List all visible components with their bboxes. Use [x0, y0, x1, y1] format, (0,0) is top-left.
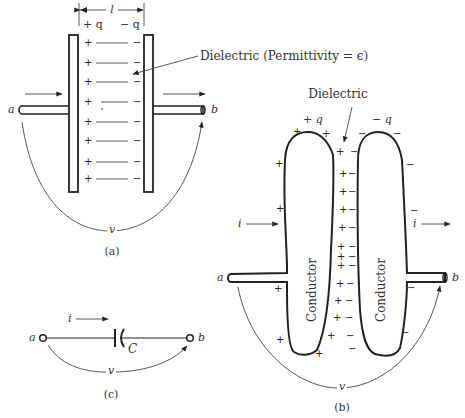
panel-a-parallel-plate: l + q − q a b +− +− +− +− +− +− +− +− Di…: [8, 3, 368, 258]
dielectric-pointer-b: [344, 107, 352, 142]
voltage-label: v: [109, 223, 116, 236]
capacitor-label: C: [128, 342, 137, 356]
voltage-label-b: v: [339, 380, 346, 393]
terminal-a-label-c: a: [29, 331, 36, 344]
plus-q-label: + q: [83, 18, 103, 31]
capacitor-diagram: l + q − q a b +− +− +− +− +− +− +− +− Di…: [0, 0, 465, 418]
svg-text:+: +: [275, 158, 283, 169]
terminal-a-label: a: [8, 103, 15, 116]
lead-b: [153, 106, 203, 114]
svg-text:+: +: [84, 116, 92, 127]
caption-a: (a): [104, 245, 119, 258]
charge-rows: +− +− +− +− +− +− +− +−: [84, 37, 141, 184]
svg-text:−: −: [346, 330, 354, 341]
svg-text:+: +: [84, 37, 92, 48]
right-plate: [144, 35, 153, 192]
svg-text:+: +: [336, 146, 344, 157]
svg-text:+: +: [327, 330, 335, 341]
voltage-label-c: v: [108, 364, 115, 377]
voltage-arc-c: [48, 345, 187, 372]
svg-text:−: −: [406, 159, 414, 170]
svg-text:−: −: [348, 186, 356, 197]
svg-text:−: −: [133, 57, 141, 68]
svg-text:+: +: [339, 204, 347, 215]
svg-text:+: +: [84, 156, 92, 167]
svg-text:−: −: [348, 260, 356, 271]
svg-text:+: +: [339, 168, 347, 179]
dielectric-label-b: Dielectric: [308, 87, 368, 101]
svg-text:+: +: [276, 203, 284, 214]
current-label-c: i: [68, 312, 72, 325]
terminal-b-label-c: b: [198, 331, 205, 344]
terminal-a-node: [40, 335, 47, 342]
svg-text:−: −: [133, 156, 141, 167]
svg-text:−: −: [410, 205, 418, 216]
svg-text:+: +: [334, 295, 342, 306]
svg-text:+: +: [333, 312, 341, 323]
lead-a: [19, 106, 69, 114]
left-conductor-label: Conductor: [305, 258, 319, 322]
svg-text:−: −: [348, 343, 356, 354]
current-out-label: i: [413, 217, 417, 230]
svg-text:−: −: [358, 128, 366, 139]
right-conductor: [358, 132, 445, 356]
panel-c-circuit-symbol: i a b C v (c): [29, 312, 205, 401]
svg-text:−: −: [348, 168, 356, 179]
svg-text:+: +: [336, 278, 344, 289]
svg-text:−: −: [401, 327, 409, 338]
minus-q-label: − q: [120, 18, 140, 31]
svg-text:+: +: [339, 186, 347, 197]
svg-text:−: −: [133, 173, 141, 184]
svg-text:−: −: [133, 116, 141, 127]
svg-text:+: +: [84, 76, 92, 87]
panel-b-arbitrary-conductors: Dielectric + q − q Conductor Conductor +…: [217, 87, 459, 414]
svg-text:+: +: [84, 57, 92, 68]
right-conductor-label: Conductor: [374, 258, 388, 322]
voltage-arc: [22, 122, 202, 231]
svg-text:+: +: [84, 96, 92, 107]
svg-text:+: +: [315, 348, 323, 359]
caption-c: (c): [104, 388, 119, 401]
current-in-label: i: [238, 217, 242, 230]
terminal-b-label-b: b: [452, 271, 459, 284]
svg-text:−: −: [133, 96, 141, 107]
dielectric-label: Dielectric (Permittivity = ϵ): [200, 49, 368, 63]
svg-text:+: +: [274, 283, 282, 294]
terminal-b-label: b: [211, 103, 218, 116]
length-label: l: [110, 3, 114, 16]
outer-charges: + + + + + + + − − − − − − −: [274, 126, 418, 359]
svg-text:+: +: [84, 135, 92, 146]
plus-q-label-b: + q: [303, 113, 323, 126]
minus-q-label-b: − q: [372, 113, 392, 126]
svg-text:−: −: [133, 135, 141, 146]
svg-text:+: +: [338, 222, 346, 233]
svg-text:−: −: [348, 222, 356, 233]
svg-text:−: −: [345, 312, 353, 323]
svg-text:+: +: [337, 260, 345, 271]
svg-text:−: −: [345, 295, 353, 306]
dielectric-pointer: [133, 56, 198, 74]
svg-text:−: −: [407, 282, 415, 293]
svg-text:−: −: [393, 128, 401, 139]
left-plate: [69, 35, 78, 192]
caption-b: (b): [334, 401, 350, 414]
svg-text:+: +: [84, 173, 92, 184]
svg-text:+: +: [322, 128, 330, 139]
svg-text:+: +: [276, 334, 284, 345]
svg-text:−: −: [348, 204, 356, 215]
svg-text:−: −: [133, 37, 141, 48]
svg-text:−: −: [350, 146, 358, 157]
svg-text:−: −: [346, 278, 354, 289]
terminal-a-label-b: a: [217, 271, 224, 284]
terminal-b-node: [187, 335, 194, 342]
svg-text:+: +: [293, 126, 301, 137]
svg-text:−: −: [133, 76, 141, 87]
